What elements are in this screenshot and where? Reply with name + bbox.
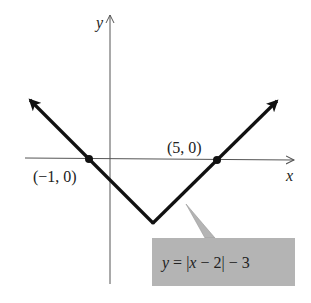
point-left-intercept [85,155,93,163]
x-axis [25,158,294,160]
point-right-intercept [213,156,221,164]
callout-pointer [186,204,215,238]
point-left-label: (−1, 0) [33,168,77,186]
x-axis-label: x [285,167,293,184]
y-axis-label: y [94,14,104,32]
equation-callout: y = |x − 2| − 3 [152,204,295,286]
callout-equation: y = |x − 2| − 3 [160,254,250,272]
vertex-joint [151,221,154,224]
point-right-label: (5, 0) [167,139,202,157]
function-graph: x y (−1, 0) (5, 0) y = |x − 2| − 3 [0,0,311,303]
